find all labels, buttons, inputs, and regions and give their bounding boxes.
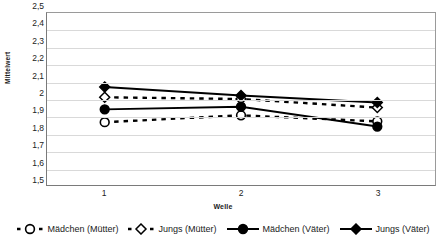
gridline: [47, 152, 435, 153]
legend-label: Jungs (Mütter): [158, 225, 216, 234]
data-point-open-circle: [26, 225, 35, 234]
y-axis-tick-labels: 2,52,42,32,22,121,91,81,71,61,5: [14, 6, 44, 196]
legend-label: Mädchen (Mütter): [47, 225, 118, 234]
series-layer: [47, 13, 435, 185]
legend-key-open-diamond-icon: [127, 223, 155, 235]
gridline: [47, 65, 435, 66]
y-axis-title: Mittelwert: [4, 52, 11, 84]
data-point-filled-circle: [238, 225, 247, 234]
legend-key-open-circle-icon: [16, 223, 44, 235]
gridline: [47, 30, 435, 31]
data-point-filled-circle: [237, 102, 246, 111]
legend-label: Mädchen (Väter): [263, 225, 330, 234]
x-axis-tick-label: 3: [376, 189, 381, 198]
legend-item[interactable]: Jungs (Mütter): [127, 223, 216, 235]
y-axis-tick-label: 2,3: [14, 37, 44, 46]
data-point-open-circle: [100, 118, 109, 127]
y-axis-tick-label: 2,1: [14, 72, 44, 81]
legend-item[interactable]: Jungs (Väter): [339, 223, 430, 235]
y-axis-tick-label: 1,6: [14, 159, 44, 168]
x-axis-tick-labels: 123: [46, 189, 436, 203]
data-point-filled-diamond: [351, 224, 361, 234]
y-axis-tick-label: 1,5: [14, 176, 44, 185]
y-axis-tick-label: 2,2: [14, 54, 44, 63]
gridline: [47, 117, 435, 118]
x-axis-tick-label: 2: [239, 189, 244, 198]
plot-area: [46, 12, 436, 186]
x-axis-tick-label: 1: [102, 189, 107, 198]
line-chart: Mittelwert 2,52,42,32,22,121,91,81,71,61…: [0, 0, 446, 242]
gridline: [47, 48, 435, 49]
series-mädchen-mütter-: [100, 111, 381, 127]
y-axis-tick-label: 1,7: [14, 141, 44, 150]
y-axis-tick-label: 2: [14, 89, 44, 98]
x-axis-title: Welle: [0, 203, 446, 210]
data-point-open-diamond: [136, 224, 146, 234]
chart-legend: Mädchen (Mütter)Jungs (Mütter)Mädchen (V…: [0, 219, 446, 239]
legend-key-filled-diamond-icon: [339, 223, 373, 235]
y-axis-tick-label: 2,4: [14, 19, 44, 28]
y-axis-tick-label: 1,9: [14, 106, 44, 115]
y-axis-tick-label: 1,8: [14, 124, 44, 133]
legend-key-filled-circle-icon: [226, 223, 260, 235]
data-point-filled-circle: [373, 122, 382, 131]
data-point-filled-circle: [100, 105, 109, 114]
y-axis-tick-label: 2,5: [14, 2, 44, 11]
legend-item[interactable]: Mädchen (Väter): [226, 223, 330, 235]
legend-label: Jungs (Väter): [376, 225, 430, 234]
gridline: [47, 83, 435, 84]
legend-item[interactable]: Mädchen (Mütter): [16, 223, 118, 235]
gridline: [47, 135, 435, 136]
gridline: [47, 100, 435, 101]
gridline: [47, 170, 435, 171]
